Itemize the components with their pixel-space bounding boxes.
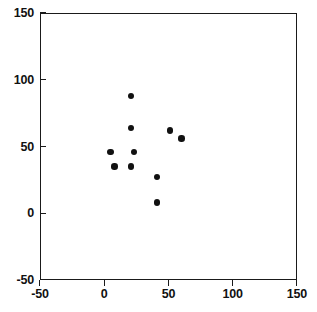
plot-frame [40, 13, 297, 280]
x-tick-label-50: 50 [139, 288, 199, 301]
x-tick--50 [39, 280, 40, 286]
x-tick-label-150: 150 [267, 288, 317, 301]
x-tick-label-0: 0 [74, 288, 134, 301]
data-point [111, 163, 117, 169]
x-tick-50 [168, 280, 169, 286]
y-tick-label--50: -50 [0, 274, 34, 287]
y-tick-label-100: 100 [0, 74, 34, 87]
y-tick-label-0: 0 [0, 207, 34, 220]
y-tick-label-150: 150 [0, 7, 34, 20]
y-tick--50 [40, 279, 46, 280]
x-tick-label--50: -50 [10, 288, 70, 301]
y-tick-label-50: 50 [0, 141, 34, 154]
y-tick-100 [40, 79, 46, 80]
x-tick-100 [232, 280, 233, 286]
data-point [154, 199, 160, 205]
x-tick-150 [296, 280, 297, 286]
data-point [131, 149, 137, 155]
scatter-plot-figure: -50050100150 -50050100150 [0, 0, 317, 312]
data-point [167, 127, 173, 133]
y-tick-150 [40, 12, 46, 13]
x-tick-0 [104, 280, 105, 286]
data-point [178, 135, 184, 141]
data-point [107, 149, 113, 155]
x-tick-label-100: 100 [203, 288, 263, 301]
y-tick-0 [40, 213, 46, 214]
y-tick-50 [40, 146, 46, 147]
